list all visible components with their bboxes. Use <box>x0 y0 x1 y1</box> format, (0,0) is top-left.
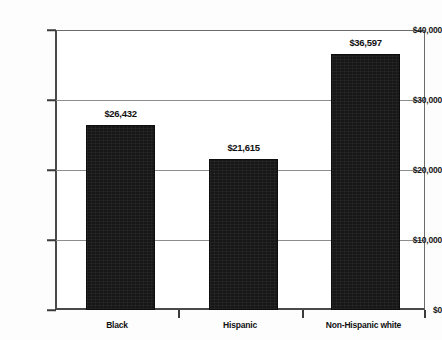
ytick-mark-30000 <box>47 99 56 101</box>
bar-value-hispanic: $21,615 <box>209 142 278 153</box>
ytick-label-40000: $40,000 <box>392 25 442 35</box>
ytick-mark-10000 <box>47 239 56 241</box>
bar-value-black: $26,432 <box>86 108 155 119</box>
bar-chart: $0 $10,000 $20,000 $30,000 $40,000 $26,4… <box>0 0 442 340</box>
xtick-mark-2 <box>302 310 304 318</box>
xtick-label-non-hispanic-white: Non-Hispanic white <box>302 320 425 330</box>
bar-value-non-hispanic-white: $36,597 <box>331 37 400 48</box>
xtick-label-black: Black <box>56 320 178 330</box>
xtick-mark-3 <box>424 310 426 318</box>
bar-hispanic <box>209 159 278 310</box>
bar-non-hispanic-white <box>331 54 400 310</box>
ytick-mark-0 <box>47 309 56 311</box>
xtick-label-hispanic: Hispanic <box>178 320 302 330</box>
ytick-mark-40000 <box>47 29 56 31</box>
xtick-mark-1 <box>178 310 180 318</box>
ytick-mark-20000 <box>47 169 56 171</box>
bar-black <box>86 125 155 310</box>
